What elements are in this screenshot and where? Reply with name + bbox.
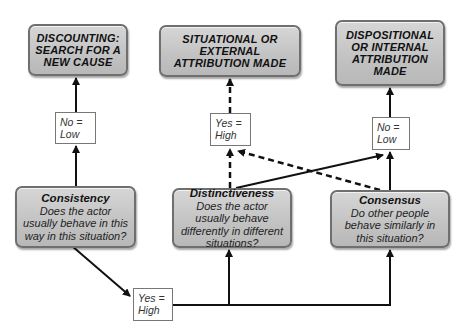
right-no-low-label: No = Low [372,117,410,150]
label-line: High [215,129,246,141]
situational-outcome-text: SITUATIONAL OR EXTERNAL ATTRIBUTION MADE [167,33,293,69]
label-line: Low [60,128,91,140]
consistency-question: Does the actor usually behave in this wa… [22,205,129,243]
distinctiveness-box: Distinctiveness Does the actor usually b… [172,188,292,248]
consistency-box: Consistency Does the actor usually behav… [15,186,136,248]
consistency-title: Consistency [41,192,109,205]
situational-outcome-box: SITUATIONAL OR EXTERNAL ATTRIBUTION MADE [159,25,301,77]
distinctiveness-title: Distinctiveness [190,187,274,200]
bottom-yes-high-label: Yes = High [133,288,173,321]
dispositional-outcome-box: DISPOSITIONAL OR INTERNAL ATTRIBUTION MA… [335,20,445,86]
label-line: High [138,304,168,316]
label-line: No = [60,116,91,128]
discounting-outcome-box: DISCOUNTING: SEARCH FOR A NEW CAUSE [28,24,128,76]
consensus-question: Do other people behave similarly in this… [340,207,440,245]
left-no-low-label: No = Low [55,112,96,144]
label-line: Yes = [138,292,168,304]
consensus-title: Consensus [359,194,421,207]
consensus-box: Consensus Do other people behave similar… [330,190,450,248]
dispositional-outcome-text: DISPOSITIONAL OR INTERNAL ATTRIBUTION MA… [341,29,439,77]
label-line: Low [377,133,405,145]
label-line: No = [377,121,405,133]
discounting-outcome-text: DISCOUNTING: SEARCH FOR A NEW CAUSE [34,32,122,68]
distinctiveness-question: Does the actor usually behave differentl… [179,200,285,250]
middle-yes-high-label: Yes = High [210,113,251,146]
label-line: Yes = [215,117,246,129]
